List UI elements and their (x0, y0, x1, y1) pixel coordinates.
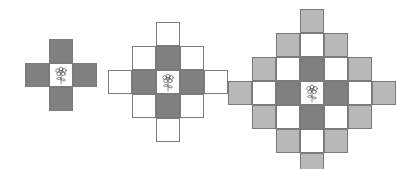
grid-cell (324, 33, 348, 57)
grid-cell (108, 70, 132, 94)
flower-icon (305, 83, 320, 103)
grid-cell-center (156, 70, 180, 94)
grid-cell (132, 94, 156, 118)
grid-cell (372, 81, 396, 105)
grid-cell (49, 87, 73, 111)
grid-cell (276, 33, 300, 57)
grid-cell (300, 9, 324, 33)
figure-2-diamond-5 (108, 22, 228, 142)
grid-cell (252, 105, 276, 129)
grid-cell (276, 129, 300, 153)
grid-cell (132, 46, 156, 70)
grid-cell (300, 153, 324, 169)
grid-cell (252, 57, 276, 81)
grid-cell (180, 46, 204, 70)
grid-cell (204, 70, 228, 94)
grid-cell (49, 39, 73, 63)
figure-canvas (0, 0, 396, 169)
grid-cell (276, 57, 300, 81)
grid-cell (324, 129, 348, 153)
grid-cell (348, 105, 372, 129)
grid-cell (25, 63, 49, 87)
grid-cell (252, 81, 276, 105)
grid-cell (132, 70, 156, 94)
grid-cell (300, 33, 324, 57)
figure-1-plus (25, 39, 97, 111)
grid-cell (324, 57, 348, 81)
grid-cell (300, 105, 324, 129)
grid-cell (300, 57, 324, 81)
grid-cell-center (300, 81, 324, 105)
flower-icon (54, 65, 69, 85)
grid-cell (348, 81, 372, 105)
grid-cell (324, 105, 348, 129)
grid-cell (276, 105, 300, 129)
grid-cell (300, 129, 324, 153)
flower-icon (161, 72, 176, 92)
grid-cell (324, 81, 348, 105)
figure-3-diamond-7 (228, 9, 396, 169)
grid-cell (156, 118, 180, 142)
grid-cell (180, 70, 204, 94)
grid-cell-center (49, 63, 73, 87)
grid-cell (156, 22, 180, 46)
grid-cell (156, 46, 180, 70)
grid-cell (276, 81, 300, 105)
grid-cell (156, 94, 180, 118)
grid-cell (228, 81, 252, 105)
grid-cell (348, 57, 372, 81)
grid-cell (73, 63, 97, 87)
grid-cell (180, 94, 204, 118)
